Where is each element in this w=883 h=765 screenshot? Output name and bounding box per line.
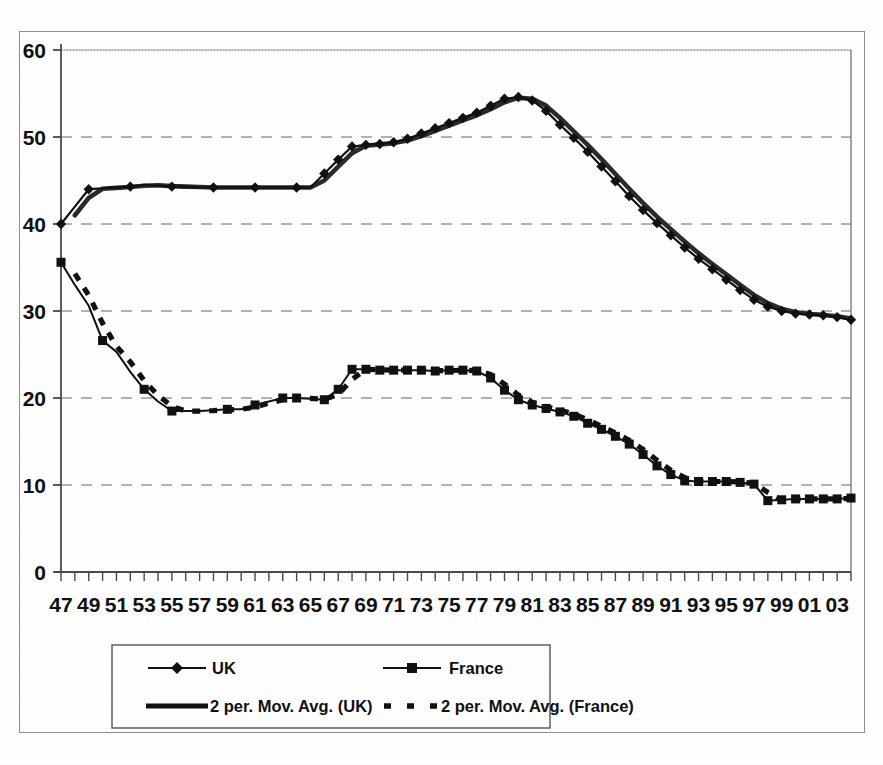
x-tick-label: 73 <box>410 593 433 616</box>
x-tick-label: 51 <box>105 593 129 616</box>
data-point-france <box>611 432 620 441</box>
data-point-france <box>292 394 301 403</box>
data-point-france <box>403 366 412 375</box>
x-tick-label: 49 <box>77 593 100 616</box>
x-tick-label: 57 <box>188 593 211 616</box>
data-point-france <box>569 412 578 421</box>
y-tick-label: 10 <box>23 474 46 497</box>
x-tick-label: 63 <box>271 593 294 616</box>
x-tick-label: 93 <box>687 593 710 616</box>
data-point-france <box>583 419 592 428</box>
data-point-france <box>666 470 675 479</box>
x-tick-label: 59 <box>216 593 239 616</box>
data-point-france <box>500 386 509 395</box>
x-axis-ticks <box>61 572 851 581</box>
data-point-france <box>431 367 440 376</box>
data-point-france <box>251 400 260 409</box>
x-tick-label: 83 <box>548 593 571 616</box>
data-point-france <box>57 258 66 267</box>
data-point-france <box>361 365 370 374</box>
y-tick-label: 20 <box>23 387 46 410</box>
legend-box <box>112 645 550 728</box>
data-point-france <box>542 404 551 413</box>
data-point-france <box>652 461 661 470</box>
y-tick-label: 0 <box>34 561 46 584</box>
data-point-france <box>763 496 772 505</box>
data-point-france <box>722 477 731 486</box>
data-point-france <box>694 477 703 486</box>
data-point-france <box>639 450 648 459</box>
data-point-france <box>458 366 467 375</box>
data-point-france <box>348 365 357 374</box>
data-point-france <box>749 480 758 489</box>
x-tick-label: 77 <box>465 593 488 616</box>
data-point-france <box>417 366 426 375</box>
x-tick-label: 91 <box>659 593 683 616</box>
data-point-france <box>389 366 398 375</box>
x-tick-label: 55 <box>160 593 184 616</box>
x-tick-label: 71 <box>382 593 406 616</box>
x-tick-label: 61 <box>243 593 267 616</box>
plot-area-background <box>61 50 851 572</box>
y-axis-tick-labels: 6050403020100 <box>23 39 46 584</box>
data-point-france <box>445 366 454 375</box>
x-tick-label: 65 <box>299 593 323 616</box>
x-tick-label: 03 <box>825 593 848 616</box>
data-point-france <box>486 373 495 382</box>
chart-legend: UK France 2 per. Mov. Avg. (UK) 2 per. M… <box>112 645 634 728</box>
data-point-france <box>625 440 634 449</box>
x-tick-label: 75 <box>437 593 461 616</box>
data-point-france <box>167 407 176 416</box>
x-tick-label: 87 <box>604 593 627 616</box>
data-point-france <box>528 400 537 409</box>
data-point-france <box>736 478 745 487</box>
data-point-france <box>777 495 786 504</box>
x-axis-tick-labels: 4749515355575961636567697173757779818385… <box>49 593 848 616</box>
x-tick-label: 85 <box>576 593 600 616</box>
data-point-france <box>98 336 107 345</box>
x-tick-label: 01 <box>798 593 822 616</box>
y-tick-label: 60 <box>23 39 46 62</box>
data-point-france <box>514 395 523 404</box>
y-tick-label: 40 <box>23 213 46 236</box>
data-point-france <box>708 477 717 486</box>
legend-label-uk: UK <box>212 659 236 677</box>
data-point-france <box>847 494 856 503</box>
x-tick-label: 95 <box>715 593 739 616</box>
square-marker-icon <box>407 663 417 673</box>
legend-label-france: France <box>449 659 503 677</box>
data-point-france <box>278 394 287 403</box>
y-axis-ticks <box>53 50 61 572</box>
y-tick-label: 50 <box>23 126 46 149</box>
data-point-france <box>791 494 800 503</box>
data-point-france <box>680 476 689 485</box>
y-tick-label: 30 <box>23 300 46 323</box>
data-point-france <box>375 366 384 375</box>
x-tick-label: 47 <box>49 593 72 616</box>
data-point-france <box>334 385 343 394</box>
x-tick-label: 97 <box>742 593 765 616</box>
chart-figure: 6050403020100 47495153555759616365676971… <box>0 0 883 765</box>
data-point-france <box>472 367 481 376</box>
data-point-france <box>833 494 842 503</box>
data-point-france <box>320 395 329 404</box>
line-chart: 6050403020100 47495153555759616365676971… <box>0 0 883 765</box>
x-tick-label: 89 <box>631 593 654 616</box>
x-tick-label: 79 <box>493 593 516 616</box>
x-tick-label: 81 <box>521 593 545 616</box>
data-point-france <box>555 407 564 416</box>
legend-label-trend-france: 2 per. Mov. Avg. (France) <box>441 697 634 715</box>
x-tick-label: 67 <box>327 593 350 616</box>
data-point-france <box>223 405 232 414</box>
data-point-france <box>819 494 828 503</box>
data-point-france <box>140 385 149 394</box>
data-point-france <box>597 425 606 434</box>
legend-label-trend-uk: 2 per. Mov. Avg. (UK) <box>210 697 373 715</box>
x-tick-label: 99 <box>770 593 793 616</box>
data-point-france <box>805 494 814 503</box>
x-tick-label: 69 <box>354 593 377 616</box>
x-tick-label: 53 <box>132 593 155 616</box>
